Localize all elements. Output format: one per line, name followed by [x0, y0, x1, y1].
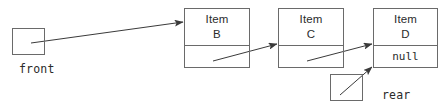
- rear-pointer-label: rear: [382, 88, 411, 102]
- list-node-c-next-cell: [279, 46, 343, 67]
- list-node-b: Item B: [184, 8, 250, 68]
- list-node-c: Item C: [278, 8, 344, 68]
- arrow-front-to-b: [31, 22, 183, 43]
- list-node-b-next-cell: [185, 46, 249, 67]
- list-node-d-data-line2: D: [401, 29, 409, 41]
- rear-pointer-box: [330, 74, 363, 101]
- list-node-d-data-cell: Item D: [374, 9, 437, 46]
- list-node-c-data-line2: C: [307, 29, 315, 41]
- list-node-c-data-cell: Item C: [279, 9, 343, 46]
- list-node-d-data-line1: Item: [394, 14, 417, 26]
- list-node-d-null-text: null: [392, 50, 419, 63]
- list-node-b-data-line2: B: [213, 29, 221, 41]
- list-node-b-data-line1: Item: [206, 14, 229, 26]
- list-node-d-next-cell: null: [374, 46, 437, 67]
- linked-list-diagram: front Item B Item C Item D null rear: [0, 0, 446, 109]
- front-pointer-label: front: [19, 62, 55, 76]
- list-node-b-data-cell: Item B: [185, 9, 249, 46]
- list-node-d: Item D null: [373, 8, 438, 68]
- front-pointer-box: [12, 28, 45, 55]
- list-node-c-data-line1: Item: [300, 14, 323, 26]
